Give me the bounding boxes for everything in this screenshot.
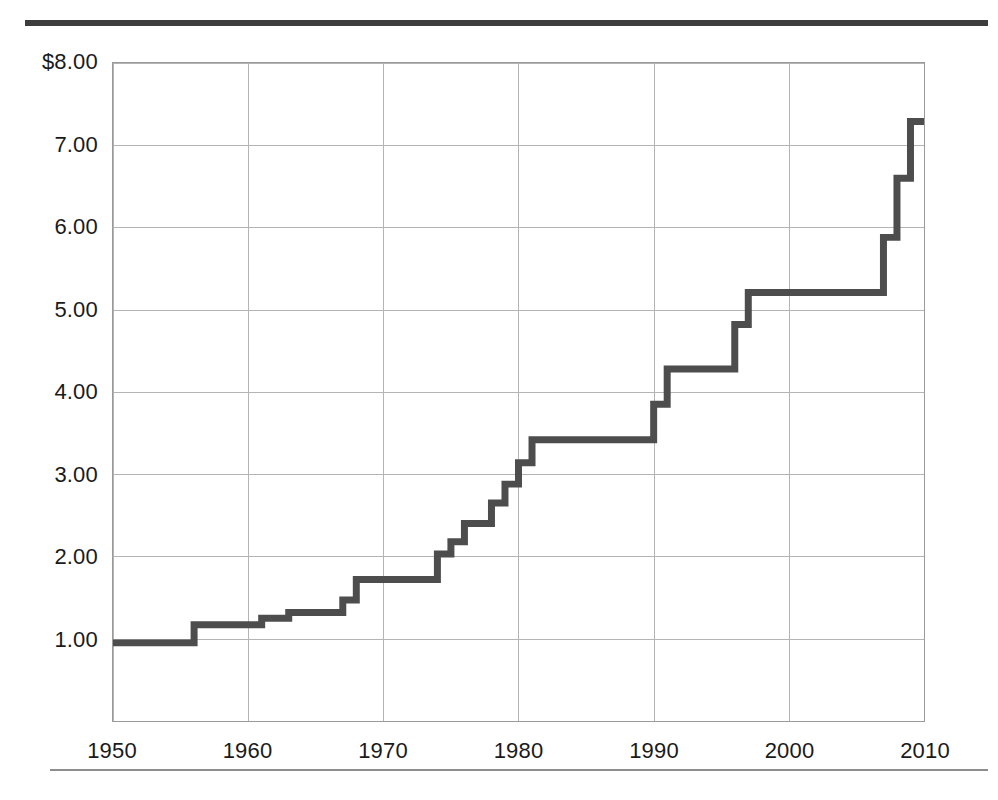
x-axis-tick-label: 1990 — [629, 740, 679, 762]
chart-area: 1.002.003.004.005.006.007.00$8.00 195019… — [0, 40, 998, 750]
bottom-rule — [50, 769, 988, 771]
figure-container: 1.002.003.004.005.006.007.00$8.00 195019… — [0, 0, 998, 800]
step-line-chart — [113, 63, 924, 721]
top-rule — [25, 20, 988, 26]
x-axis-tick-label: 1950 — [87, 740, 137, 762]
x-axis-tick-label: 1980 — [494, 740, 544, 762]
plot-area — [112, 62, 925, 722]
x-axis-tick-label: 2000 — [765, 740, 815, 762]
x-axis-tick-label: 1960 — [223, 740, 273, 762]
x-axis-tick-label: 1970 — [358, 740, 408, 762]
x-axis-tick-label: 2010 — [900, 740, 950, 762]
